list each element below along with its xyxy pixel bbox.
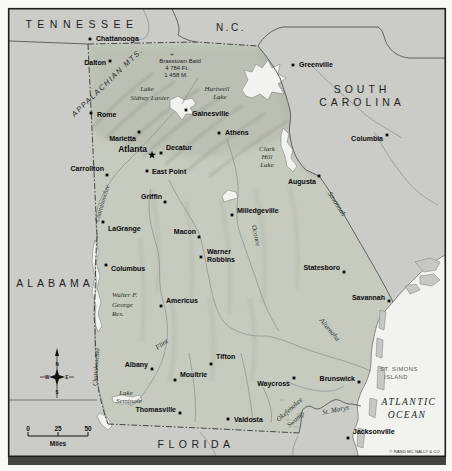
city-label-east-point: East Point xyxy=(152,168,187,175)
city-label-chattanooga: Chattanooga xyxy=(96,35,139,43)
city-label-atlanta: Atlanta xyxy=(118,144,147,154)
city-dot-icon xyxy=(218,132,221,135)
water-label-walter-f: Walter F. xyxy=(112,291,138,299)
state-label-south: SOUTH xyxy=(334,83,391,95)
city-dot-icon xyxy=(231,214,234,217)
city-label-americus: Americus xyxy=(166,297,198,304)
scale-unit-label: Miles xyxy=(50,440,67,447)
city-dot-icon xyxy=(293,377,296,380)
city-dot-icon xyxy=(185,109,188,112)
georgia-state-map: TENNESSEEN.C.SOUTHCAROLINAALABAMAFLORIDA… xyxy=(0,0,452,471)
city-label-rome: Rome xyxy=(97,111,117,118)
city-label-valdosta: Valdosta xyxy=(234,416,263,423)
city-dot-icon xyxy=(227,418,230,421)
city-label-moultrie: Moultrie xyxy=(180,371,207,378)
city-dot-icon xyxy=(138,131,141,134)
city-label-savannah: Savannah xyxy=(352,294,385,301)
city-gainesville: Gainesville xyxy=(185,109,229,117)
scale-tick-2: 50 xyxy=(84,425,92,432)
bottom-shadow-band xyxy=(8,457,446,465)
city-label-marietta: Marietta xyxy=(109,135,136,142)
city-dot-icon xyxy=(318,175,321,178)
water-label-hill: Hill xyxy=(261,153,273,161)
city-label-dalton: Dalton xyxy=(84,59,106,66)
city-dot-icon xyxy=(105,264,108,267)
state-label-alabama: ALABAMA xyxy=(16,277,94,289)
city-label-carrollton: Carrollton xyxy=(71,165,104,172)
feature-label-1-458-m: 1 458 M. xyxy=(164,72,188,78)
water-label-sidney-lanier: Sidney Lanier xyxy=(130,94,169,102)
city-dot-icon xyxy=(146,170,149,173)
water-label-lake: Lake xyxy=(139,85,154,93)
water-label-lake: Lake xyxy=(259,161,274,169)
city-dot-icon xyxy=(160,152,163,155)
water-label-lake: Lake xyxy=(212,93,227,101)
city-label-columbia: Columbia xyxy=(351,135,383,142)
compass-e-label: E xyxy=(65,375,68,380)
city-dot-icon xyxy=(106,174,109,177)
city-label-brunswick: Brunswick xyxy=(320,375,356,382)
state-label-tennessee: TENNESSEE xyxy=(25,18,138,30)
city-label-waycross: Waycross xyxy=(257,380,290,388)
city-dot-icon xyxy=(90,112,93,115)
city-label-columbus: Columbus xyxy=(111,265,145,272)
compass-s-label: S xyxy=(55,390,58,395)
city-dot-icon xyxy=(386,134,389,137)
feature-label-4-784-ft: 4 784 Ft. xyxy=(165,65,189,71)
city-dot-icon xyxy=(292,64,295,67)
city-dot-icon xyxy=(210,363,213,366)
scale-tick-1: 25 xyxy=(54,425,62,432)
city-label-augusta: Augusta xyxy=(288,178,316,186)
state-label-carolina: CAROLINA xyxy=(319,96,405,108)
state-label-florida: FLORIDA xyxy=(157,438,234,450)
city-columbus: Columbus xyxy=(105,264,146,272)
state-label-n-c: N.C. xyxy=(216,22,246,33)
water-label-res: Res. xyxy=(111,310,124,318)
city-label-jacksonville: Jacksonville xyxy=(353,428,395,435)
city-dot-icon xyxy=(151,368,154,371)
map-page: TENNESSEEN.C.SOUTHCAROLINAALABAMAFLORIDA… xyxy=(0,0,452,471)
feature-label-island: ISLAND xyxy=(384,374,408,380)
compass-n-label: N xyxy=(55,362,58,367)
city-chattanooga: Chattanooga xyxy=(89,35,139,43)
city-label-thomasville: Thomasville xyxy=(136,406,177,413)
city-label-statesboro: Statesboro xyxy=(303,264,340,271)
water-label-lake: Lake xyxy=(118,389,133,397)
city-dot-icon xyxy=(200,256,203,259)
city-dot-icon xyxy=(160,305,163,308)
city-dot-icon xyxy=(343,271,346,274)
water-label-george: George xyxy=(112,301,133,309)
credit-layer: © RAND MC NALLY & CO. xyxy=(389,449,441,454)
city-label-griffin: Griffin xyxy=(141,193,162,200)
water-label-clark: Clark xyxy=(259,145,276,153)
city-dot-icon xyxy=(109,60,112,63)
water-label-hartwell: Hartwell xyxy=(204,85,230,93)
scale-tick-0: 0 xyxy=(26,425,30,432)
city-label-warner-robbins-1: Robbins xyxy=(207,256,235,263)
city-label-albany: Albany xyxy=(125,361,148,369)
city-label-warner-robbins-0: Warner xyxy=(207,248,231,255)
city-label-milledgeville: Milledgeville xyxy=(237,207,279,215)
water-label-seminole: Seminole xyxy=(116,397,142,405)
city-label-greenville: Greenville xyxy=(299,61,333,68)
feature-label-: + xyxy=(170,51,174,57)
city-dot-icon xyxy=(347,437,350,440)
city-dot-icon xyxy=(388,300,391,303)
city-dot-icon xyxy=(198,236,201,239)
city-label-macon: Macon xyxy=(174,228,196,235)
city-label-lagrange: LaGrange xyxy=(108,225,141,233)
city-label-tifton: Tifton xyxy=(216,353,235,360)
city-label-gainesville: Gainesville xyxy=(192,110,229,117)
city-dot-icon xyxy=(102,221,105,224)
city-dot-icon xyxy=(358,381,361,384)
city-label-decatur: Decatur xyxy=(166,144,192,151)
feature-label-st-simons: ST. SIMONS xyxy=(380,366,418,372)
feature-label-brasstown-bald: Brasstown Bald xyxy=(159,58,201,64)
city-dot-icon xyxy=(164,201,167,204)
city-dot-icon xyxy=(179,412,182,415)
city-dot-icon xyxy=(89,38,92,41)
city-columbia: Columbia xyxy=(351,134,388,142)
map-credit: © RAND MC NALLY & CO. xyxy=(389,449,441,454)
city-east-point: East Point xyxy=(146,168,187,175)
ocean-label-ocean: OCEAN xyxy=(388,410,427,420)
